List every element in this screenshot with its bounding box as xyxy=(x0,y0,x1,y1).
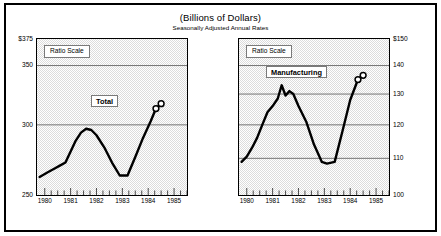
x-tick-label: 1982 xyxy=(83,198,109,204)
chart-panel-manufacturing: $150140130120110100 19801981198219831984… xyxy=(238,38,390,196)
y-tick-label: 140 xyxy=(393,62,423,69)
x-tick-label: 1981 xyxy=(58,198,84,204)
x-axis-total: 198019811982198319841985 xyxy=(36,198,188,210)
y-tick-label: $150 xyxy=(393,36,423,43)
x-tick-label: 1983 xyxy=(109,198,135,204)
y-tick-label: $375 xyxy=(3,36,33,43)
y-axis-manufacturing: $150140130120110100 xyxy=(393,38,423,196)
ratio-scale-note-manufacturing: Ratio Scale xyxy=(246,45,292,58)
chart-panel-total: $375350300250 198019811982198319841985 R… xyxy=(36,38,188,196)
x-axis-manufacturing: 198019811982198319841985 xyxy=(238,198,390,210)
x-tick-label: 1985 xyxy=(363,198,389,204)
x-tick-label: 1982 xyxy=(285,198,311,204)
y-tick-label: 250 xyxy=(3,192,33,199)
chart-subtitle: Seasonally Adjusted Annual Rates xyxy=(0,24,441,31)
x-tick-label: 1980 xyxy=(32,198,58,204)
x-tick-label: 1983 xyxy=(311,198,337,204)
series-plot-total xyxy=(37,39,187,195)
y-tick-label: 100 xyxy=(393,192,423,199)
y-tick-label: 130 xyxy=(393,91,423,98)
y-tick-label: 300 xyxy=(3,122,33,129)
y-tick-label: 120 xyxy=(393,122,423,129)
plot-area-total xyxy=(36,38,188,196)
plot-area-manufacturing xyxy=(238,38,390,196)
y-axis-total: $375350300250 xyxy=(3,38,33,196)
chart-title: (Billions of Dollars) xyxy=(0,12,441,23)
x-tick-label: 1984 xyxy=(337,198,363,204)
x-tick-label: 1981 xyxy=(260,198,286,204)
series-label-manufacturing: Manufacturing xyxy=(266,66,327,78)
chart-figure: (Billions of Dollars) Seasonally Adjuste… xyxy=(0,0,441,236)
x-tick-label: 1984 xyxy=(135,198,161,204)
series-plot-manufacturing xyxy=(239,39,389,195)
ratio-scale-note-total: Ratio Scale xyxy=(44,45,90,58)
x-tick-label: 1980 xyxy=(234,198,260,204)
y-tick-label: 350 xyxy=(3,62,33,69)
x-tick-label: 1985 xyxy=(161,198,187,204)
y-tick-label: 110 xyxy=(393,155,423,162)
series-label-total: Total xyxy=(91,95,118,107)
